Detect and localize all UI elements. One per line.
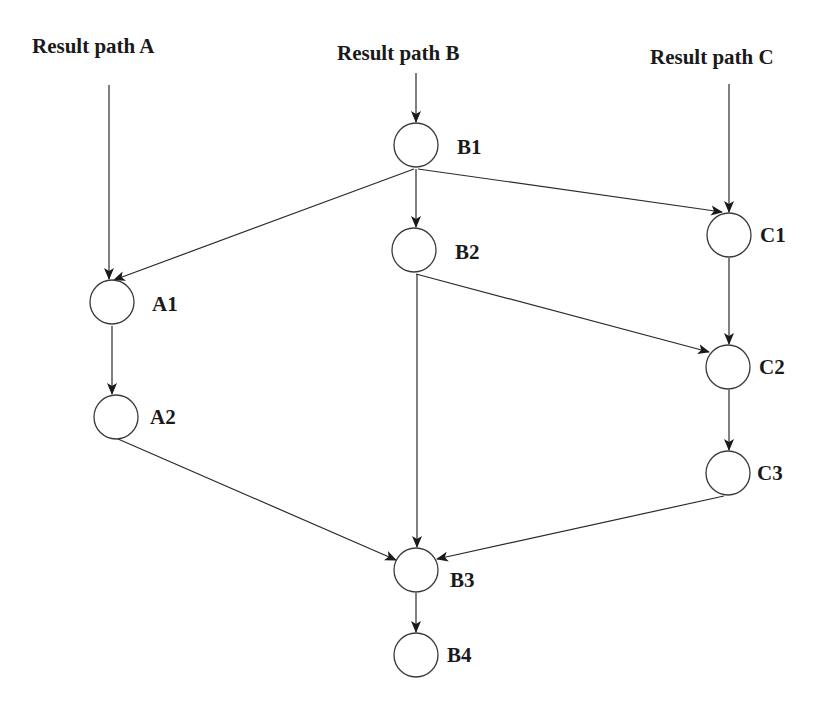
node-b1[interactable]: B1	[394, 123, 482, 167]
node-b3-label: B3	[450, 568, 475, 592]
edge-b1-to-c1	[418, 169, 722, 212]
node-b3[interactable]: B3	[394, 548, 475, 592]
node-a2-label: A2	[150, 405, 176, 429]
node-c3-circle[interactable]	[706, 451, 750, 495]
node-b2-circle[interactable]	[392, 228, 436, 272]
header-result-path-b: Result path B	[337, 41, 460, 65]
node-c1-label: C1	[760, 223, 786, 247]
node-b1-label: B1	[457, 135, 482, 159]
edge-c3-to-b3	[437, 496, 724, 559]
node-c3[interactable]: C3	[706, 451, 783, 495]
header-result-path-c: Result path C	[650, 45, 774, 69]
node-c2[interactable]: C2	[706, 345, 785, 389]
edge-b2-to-c2	[416, 274, 709, 352]
edge-a2-to-b3	[118, 439, 396, 560]
node-c3-label: C3	[757, 461, 783, 485]
node-a2[interactable]: A2	[94, 395, 176, 439]
node-b2[interactable]: B2	[392, 228, 480, 272]
node-c2-label: C2	[759, 355, 785, 379]
node-b2-label: B2	[455, 240, 480, 264]
result-path-diagram: Result path A Result path B Result path …	[0, 0, 832, 707]
node-c1[interactable]: C1	[707, 213, 786, 257]
header-result-path-a: Result path A	[32, 34, 155, 58]
node-a2-circle[interactable]	[94, 395, 138, 439]
node-c1-circle[interactable]	[707, 213, 751, 257]
edge-b1-to-a1	[114, 169, 414, 280]
node-a1-label: A1	[152, 292, 178, 316]
node-b3-circle[interactable]	[394, 548, 438, 592]
node-b4-circle[interactable]	[394, 633, 438, 677]
node-b4-label: B4	[447, 643, 472, 667]
node-b1-circle[interactable]	[394, 123, 438, 167]
node-a1[interactable]: A1	[90, 280, 178, 324]
node-c2-circle[interactable]	[706, 345, 750, 389]
node-a1-circle[interactable]	[90, 280, 134, 324]
node-b4[interactable]: B4	[394, 633, 472, 677]
